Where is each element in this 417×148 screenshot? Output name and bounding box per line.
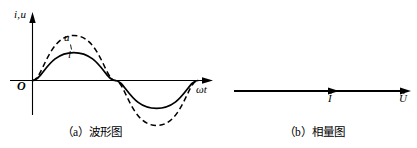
y-axis-label: i,u xyxy=(14,9,26,20)
panel-a-caption: （a）波形图 xyxy=(62,127,122,139)
origin-label: O xyxy=(17,80,26,92)
panel-a-waveform xyxy=(10,12,213,126)
panel-b-phasor xyxy=(234,88,411,95)
figure-container: i,u O ωt u i İ U̇ （a）波形图 （b）相量图 xyxy=(0,0,417,148)
panel-b-caption: （b）相量图 xyxy=(284,127,345,139)
current-curve-label: i xyxy=(68,49,71,60)
y-axis-arrowhead xyxy=(29,12,35,23)
x-axis-label: ωt xyxy=(196,84,207,95)
phasor-voltage-label: U̇ xyxy=(399,93,407,104)
voltage-curve-label: u xyxy=(64,32,70,43)
phasor-current-label: İ xyxy=(328,93,332,104)
